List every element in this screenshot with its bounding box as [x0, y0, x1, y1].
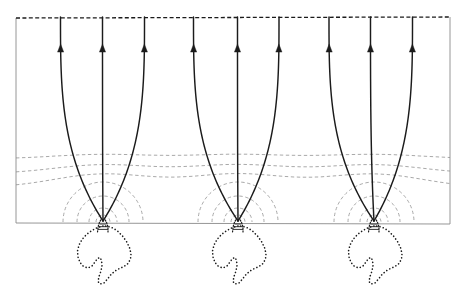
field-convergence-diagram: [0, 0, 464, 297]
field-line-arrowhead-g3-1: [326, 44, 332, 52]
field-line-arrowhead-g3-3: [409, 44, 415, 52]
field-line-arrowhead-g1-3: [141, 44, 147, 52]
field-line-arrowhead-g1-2: [99, 44, 105, 52]
domain-bottom-edge: [16, 223, 450, 224]
field-line-arrowhead-g2-3: [276, 44, 282, 52]
field-line-arrowhead-g2-2: [234, 44, 240, 52]
flux-rope-blob-2: [213, 226, 267, 284]
field-line-g3-3: [374, 17, 413, 221]
field-line-g1-1: [61, 17, 104, 221]
field-line-g2-1: [194, 17, 239, 221]
domain-top-edge: [16, 17, 450, 18]
field-line-arrowhead-g3-2: [367, 44, 373, 52]
contour-line-contour-1: [10, 154, 456, 158]
flux-rope-blob-group: [78, 220, 403, 284]
flux-rope-blob-1: [78, 226, 132, 284]
flux-rope-blob-3: [349, 226, 403, 284]
equipotential-contour-group: [10, 154, 456, 185]
field-line-g3-1: [329, 17, 374, 221]
field-line-arrowhead-g2-1: [191, 44, 197, 52]
field-line-g1-3: [103, 17, 145, 221]
magnetic-field-line-group: [58, 17, 416, 221]
figure-root: [0, 0, 464, 297]
simulation-domain-box: [16, 17, 450, 224]
field-line-g2-3: [238, 17, 279, 221]
contour-line-contour-3: [10, 174, 456, 186]
field-line-arrowhead-g1-1: [58, 44, 64, 52]
